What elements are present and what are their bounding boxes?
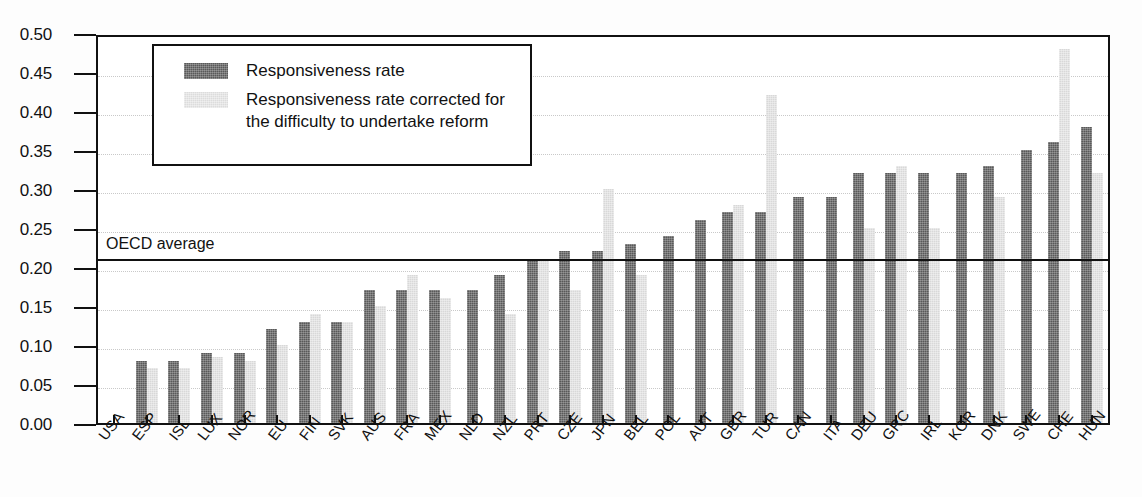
bar-group — [98, 37, 131, 423]
y-tick-mark — [74, 268, 96, 270]
legend-label-0: Responsiveness rate — [246, 60, 405, 81]
bar-responsiveness-rate-corrected — [310, 314, 321, 423]
bar-responsiveness-rate — [956, 173, 967, 423]
y-tick-mark — [74, 151, 96, 153]
y-tick-label: 0.15 — [20, 298, 52, 318]
bar-group — [1010, 37, 1043, 423]
y-tick-mark — [74, 112, 96, 114]
bar-responsiveness-rate — [266, 329, 277, 423]
bar-responsiveness-rate-corrected — [440, 298, 451, 423]
y-tick-label: 0.45 — [20, 64, 52, 84]
bar-group — [717, 37, 750, 423]
legend-swatch-dark-icon — [184, 63, 228, 79]
bar-group — [652, 37, 685, 423]
y-tick-label: 0.00 — [20, 415, 52, 435]
bar-responsiveness-rate-corrected — [1059, 49, 1070, 423]
x-axis-label-cell: GRC — [881, 429, 914, 495]
y-tick-mark — [74, 34, 96, 36]
legend-entry-responsiveness-rate-corrected: Responsiveness rate corrected for the di… — [154, 89, 530, 132]
chart-figure: 0.500.450.400.350.300.250.200.150.100.05… — [0, 0, 1142, 497]
x-axis-label-cell: LUX — [194, 429, 227, 495]
oecd-average-label: OECD average — [106, 235, 215, 253]
oecd-average-line — [98, 259, 1108, 261]
chart-legend: Responsiveness rate Responsiveness rate … — [152, 44, 532, 166]
x-axis-label-cell: IRL — [914, 429, 947, 495]
x-axis-label-cell: JPN — [587, 429, 620, 495]
bar-responsiveness-rate — [1081, 127, 1092, 423]
bar-responsiveness-rate — [559, 251, 570, 423]
bar-responsiveness-rate — [983, 166, 994, 423]
y-tick-mark — [74, 229, 96, 231]
bar-group — [945, 37, 978, 423]
bar-responsiveness-rate-corrected — [505, 314, 516, 423]
x-axis-label-cell: NLD — [456, 429, 489, 495]
x-axis-label-cell: NOR — [227, 429, 260, 495]
x-axis-label-cell: ISL — [161, 429, 194, 495]
x-axis-label-cell: EU — [260, 429, 293, 495]
bar-group — [847, 37, 880, 423]
bar-group — [815, 37, 848, 423]
bar-responsiveness-rate-corrected — [864, 228, 875, 423]
y-tick-label: 0.30 — [20, 181, 52, 201]
legend-entry-responsiveness-rate: Responsiveness rate — [154, 60, 530, 81]
x-axis-label-cell: DEU — [848, 429, 881, 495]
x-axis-label-cell: FRA — [390, 429, 423, 495]
bar-responsiveness-rate — [527, 259, 538, 423]
bar-responsiveness-rate — [396, 290, 407, 423]
bar-responsiveness-rate-corrected — [896, 166, 907, 423]
bar-group — [912, 37, 945, 423]
x-axis-label-cell: BEL — [619, 429, 652, 495]
bar-responsiveness-rate — [429, 290, 440, 423]
bar-responsiveness-rate-corrected — [179, 368, 190, 423]
x-axis-label-cell: HUN — [1077, 429, 1110, 495]
bar-group — [978, 37, 1011, 423]
bar-responsiveness-rate-corrected — [1092, 173, 1103, 423]
bar-responsiveness-rate — [625, 244, 636, 423]
y-tick-label: 0.50 — [20, 25, 52, 45]
y-tick-label: 0.10 — [20, 337, 52, 357]
bar-responsiveness-rate — [826, 197, 837, 423]
bar-responsiveness-rate-corrected — [733, 205, 744, 423]
bar-responsiveness-rate-corrected — [538, 259, 549, 423]
x-axis-label-cell: SWE — [1012, 429, 1045, 495]
bar-responsiveness-rate — [331, 322, 342, 423]
bar-responsiveness-rate — [695, 220, 706, 423]
y-tick-mark — [74, 385, 96, 387]
y-tick-mark — [74, 190, 96, 192]
bar-group — [619, 37, 652, 423]
x-axis-label-cell: MEX — [423, 429, 456, 495]
y-tick-mark — [74, 307, 96, 309]
bar-responsiveness-rate — [755, 212, 766, 423]
bar-responsiveness-rate — [467, 290, 478, 423]
x-axis-label-cell: CAN — [783, 429, 816, 495]
bar-responsiveness-rate — [168, 361, 179, 423]
bar-responsiveness-rate-corrected — [994, 197, 1005, 423]
y-tick-label: 0.35 — [20, 142, 52, 162]
x-axis-labels: USAESPISLLUXNOREUFINSVKAUSFRAMEXNLDNZLPR… — [96, 429, 1110, 495]
bar-responsiveness-rate — [1021, 150, 1032, 423]
bar-group — [880, 37, 913, 423]
x-axis-label-cell: PRT — [521, 429, 554, 495]
x-axis-label-cell: SVK — [325, 429, 358, 495]
x-axis-label-cell: AUT — [685, 429, 718, 495]
y-tick-label: 0.40 — [20, 103, 52, 123]
x-axis-label-cell: FIN — [292, 429, 325, 495]
x-axis-label-cell: USA — [96, 429, 129, 495]
x-axis-label-cell: GBR — [717, 429, 750, 495]
bar-responsiveness-rate — [364, 290, 375, 423]
bar-responsiveness-rate — [663, 236, 674, 423]
bar-responsiveness-rate-corrected — [342, 322, 353, 423]
bar-responsiveness-rate — [592, 251, 603, 423]
y-tick-label: 0.20 — [20, 259, 52, 279]
legend-swatch-light-icon — [184, 92, 228, 108]
x-axis-label-cell: DNK — [979, 429, 1012, 495]
bar-responsiveness-rate — [793, 197, 804, 423]
x-axis-label-cell: AUS — [358, 429, 391, 495]
bar-responsiveness-rate-corrected — [603, 189, 614, 423]
x-axis-label-cell: KOR — [946, 429, 979, 495]
x-axis-label-cell: ESP — [129, 429, 162, 495]
bar-responsiveness-rate — [853, 173, 864, 423]
bar-responsiveness-rate — [1048, 142, 1059, 423]
bar-responsiveness-rate-corrected — [929, 228, 940, 423]
bar-responsiveness-rate-corrected — [277, 345, 288, 423]
